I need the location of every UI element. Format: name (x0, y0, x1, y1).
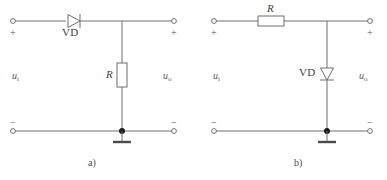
polarity-a-output-negative: − (171, 118, 177, 128)
resistor-icon-b (258, 16, 284, 26)
circuit-canvas (0, 0, 387, 180)
polarity-b-output-positive: + (367, 28, 373, 38)
terminal-b-output-negative[interactable] (368, 129, 373, 134)
output-voltage-subscript-a: o (168, 75, 172, 83)
diode-label-a: VD (62, 27, 79, 38)
circuit-a-group (11, 14, 177, 142)
polarity-a-input-negative: − (10, 118, 16, 128)
input-voltage-label-b: ui (213, 71, 220, 81)
circuit-figure: + + − − VD R ui uo a) + + − − R VD ui uo… (0, 0, 387, 180)
polarity-a-input-positive: + (10, 28, 16, 38)
output-voltage-label-a: uo (163, 71, 172, 81)
caption-b: b) (294, 158, 302, 168)
terminal-a-output-negative[interactable] (172, 129, 177, 134)
resistor-icon-a (117, 63, 127, 87)
terminal-a-input-positive[interactable] (11, 19, 16, 24)
terminal-b-input-negative[interactable] (212, 129, 217, 134)
output-voltage-subscript-b: o (364, 75, 368, 83)
diode-icon-b (321, 68, 334, 80)
polarity-a-output-positive: + (171, 28, 177, 38)
terminal-a-output-positive[interactable] (172, 19, 177, 24)
polarity-b-input-negative: − (211, 118, 217, 128)
terminal-a-input-negative[interactable] (11, 129, 16, 134)
terminal-b-input-positive[interactable] (212, 19, 217, 24)
resistor-label-a: R (106, 69, 113, 80)
input-voltage-label-a: ui (12, 71, 19, 81)
input-voltage-subscript-b: i (218, 75, 220, 83)
resistor-label-b: R (267, 3, 274, 14)
diode-label-b: VD (299, 67, 316, 78)
circuit-b-group (212, 16, 373, 142)
input-voltage-subscript-a: i (17, 75, 19, 83)
output-voltage-label-b: uo (359, 71, 368, 81)
caption-a: a) (88, 158, 96, 168)
terminal-b-output-positive[interactable] (368, 19, 373, 24)
polarity-b-input-positive: + (211, 28, 217, 38)
polarity-b-output-negative: − (367, 118, 373, 128)
